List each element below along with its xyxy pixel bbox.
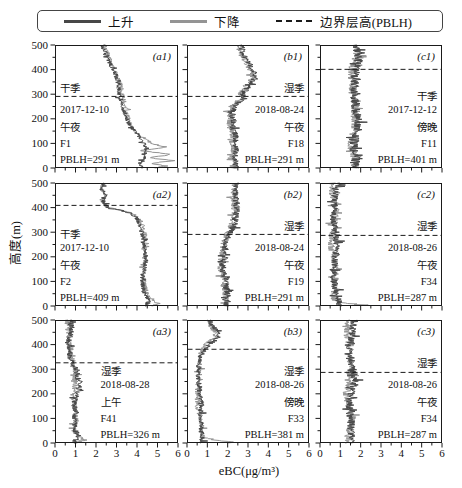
x-tick-label: 1 xyxy=(73,447,79,459)
x-tick-label: 2 xyxy=(358,447,364,459)
pblh-value-label: PBLH=291 m xyxy=(60,154,119,165)
y-tick-label: 200 xyxy=(32,387,49,399)
descend-line-icon xyxy=(170,20,207,23)
flight-label: F34 xyxy=(421,413,438,424)
flight-label: F19 xyxy=(288,276,304,287)
panel-label: (a1) xyxy=(153,50,172,63)
time-label: 午夜 xyxy=(284,121,305,133)
panel-label: (c2) xyxy=(417,188,435,201)
season-label: 干季 xyxy=(60,229,81,240)
ebc-profile-figure: 上升 下降 边界层高(PBLH) 高度(m) 0100200300400500(… xyxy=(0,0,462,488)
time-label: 午夜 xyxy=(284,259,305,271)
ascend-line-icon xyxy=(64,20,101,23)
season-label: 湿季 xyxy=(284,366,305,377)
season-label: 湿季 xyxy=(417,358,438,369)
x-tick-label: 0 xyxy=(52,447,58,459)
time-label: 午夜 xyxy=(60,121,81,133)
legend-item-descend: 下降 xyxy=(170,12,240,31)
date-label: 2018-08-26 xyxy=(388,379,437,390)
panel-b1: (b1)湿季2018-08-24午夜F18PBLH=291 m xyxy=(187,45,309,168)
y-tick-label: 500 xyxy=(32,39,49,51)
x-tick-label: 4 xyxy=(266,447,272,459)
panel-label: (b2) xyxy=(284,188,303,201)
panel-b2: (b2)湿季2018-08-24午夜F19PBLH=291 m xyxy=(187,183,309,306)
panel-label: (b3) xyxy=(284,325,303,338)
date-label: 2017-12-12 xyxy=(388,104,437,115)
panel-b3: 0123456(b3)湿季2018-08-26傍晚F33PBLH=381 m xyxy=(187,320,309,443)
ascend-profile-line xyxy=(218,183,241,306)
y-tick-label: 0 xyxy=(43,437,49,449)
date-label: 2018-08-24 xyxy=(255,104,305,115)
season-label: 湿季 xyxy=(284,221,305,232)
flight-label: F34 xyxy=(421,276,438,287)
panel-a2: 0100200300400500(a2)干季2017-12-10午夜F2PBLH… xyxy=(55,183,178,306)
descend-profile-line xyxy=(103,45,175,168)
date-label: 2017-12-10 xyxy=(60,104,109,115)
pblh-value-label: PBLH=287 m xyxy=(378,292,437,303)
time-label: 午夜 xyxy=(417,259,438,271)
x-tick-label: 1 xyxy=(338,447,344,459)
pblh-value-label: PBLH=291 m xyxy=(245,292,304,303)
y-tick-label: 100 xyxy=(32,137,49,149)
flight-label: F33 xyxy=(288,413,304,424)
x-tick-label: 0 xyxy=(317,447,323,459)
legend-descend-label: 下降 xyxy=(214,12,240,31)
pblh-value-label: PBLH=409 m xyxy=(60,292,119,303)
legend: 上升 下降 边界层高(PBLH) xyxy=(37,10,443,32)
date-label: 2018-08-28 xyxy=(101,379,150,390)
panel-label: (a3) xyxy=(153,325,172,338)
date-label: 2017-12-10 xyxy=(60,242,109,253)
panel-label: (b1) xyxy=(284,50,303,63)
season-label: 干季 xyxy=(60,83,81,94)
flight-label: F1 xyxy=(60,138,71,149)
time-label: 上午 xyxy=(101,396,121,408)
flight-label: F18 xyxy=(288,138,304,149)
dashed-line-icon xyxy=(276,20,313,22)
panel-c2: (c2)湿季2018-08-26午夜F34PBLH=287 m xyxy=(320,183,442,306)
x-tick-label: 0 xyxy=(184,447,190,459)
x-tick-label: 3 xyxy=(245,447,251,459)
x-tick-label: 6 xyxy=(439,447,445,459)
panel-c1: (c1)干季2017-12-12傍晚F11PBLH=401 m xyxy=(320,45,442,168)
pblh-value-label: PBLH=326 m xyxy=(101,429,160,440)
y-tick-label: 300 xyxy=(32,226,49,238)
y-tick-label: 400 xyxy=(32,201,49,213)
pblh-value-label: PBLH=401 m xyxy=(378,154,437,165)
x-tick-label: 5 xyxy=(419,447,425,459)
pblh-value-label: PBLH=287 m xyxy=(378,429,437,440)
season-label: 湿季 xyxy=(284,83,305,94)
y-tick-label: 500 xyxy=(32,177,49,189)
season-label: 湿季 xyxy=(417,221,438,232)
x-tick-label: 4 xyxy=(134,447,140,459)
date-label: 2018-08-24 xyxy=(255,242,305,253)
season-label: 干季 xyxy=(417,91,438,102)
legend-item-pblh: 边界层高(PBLH) xyxy=(276,12,412,31)
x-tick-label: 5 xyxy=(286,447,292,459)
x-tick-label: 5 xyxy=(155,447,161,459)
ascend-profile-line xyxy=(343,320,364,443)
time-label: 午夜 xyxy=(417,396,438,408)
date-label: 2018-08-26 xyxy=(388,242,437,253)
x-tick-label: 4 xyxy=(399,447,405,459)
panel-label: (a2) xyxy=(153,188,172,201)
x-axis-title: eBC(μg/m³) xyxy=(55,464,443,479)
legend-item-ascend: 上升 xyxy=(64,12,134,31)
x-tick-label: 2 xyxy=(225,447,231,459)
x-tick-label: 2 xyxy=(93,447,99,459)
y-tick-label: 0 xyxy=(43,162,49,174)
x-tick-label: 6 xyxy=(175,447,181,459)
y-tick-label: 500 xyxy=(32,314,49,326)
y-tick-label: 400 xyxy=(32,63,49,75)
flight-label: F2 xyxy=(60,276,71,287)
panel-label: (c1) xyxy=(417,50,435,63)
time-label: 傍晚 xyxy=(417,121,438,133)
y-tick-label: 400 xyxy=(32,338,49,350)
y-tick-label: 300 xyxy=(32,363,49,375)
y-axis-title: 高度(m) xyxy=(7,211,25,275)
y-tick-label: 300 xyxy=(32,88,49,100)
time-label: 傍晚 xyxy=(284,396,305,408)
y-tick-label: 100 xyxy=(32,275,49,287)
x-tick-label: 3 xyxy=(378,447,384,459)
season-label: 湿季 xyxy=(101,366,122,377)
legend-pblh-label: 边界层高(PBLH) xyxy=(320,12,412,31)
